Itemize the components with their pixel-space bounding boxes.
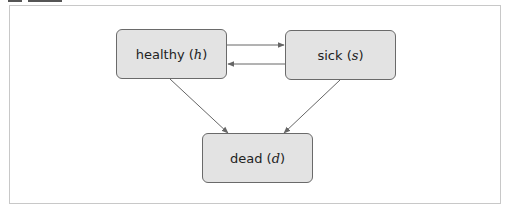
- node-label: dead (d): [230, 151, 285, 166]
- node-sick: sick (s): [285, 30, 396, 80]
- edge-healthy-to-dead: [170, 79, 228, 133]
- edge-sick-to-dead: [284, 80, 340, 133]
- node-healthy: healthy (h): [116, 29, 227, 79]
- node-dead: dead (d): [202, 133, 313, 183]
- node-label: sick (s): [317, 48, 363, 63]
- node-label: healthy (h): [136, 47, 208, 62]
